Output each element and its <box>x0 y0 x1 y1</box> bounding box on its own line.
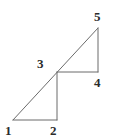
vertex-label-1: 1 <box>5 124 12 137</box>
geometry-figure: 1 2 3 4 5 <box>0 0 113 140</box>
vertex-label-2: 2 <box>50 124 57 137</box>
vertex-label-4: 4 <box>94 76 101 89</box>
segment-hypotenuse-1-to-5 <box>13 28 98 120</box>
vertex-label-3: 3 <box>37 57 44 70</box>
vertex-label-5: 5 <box>94 10 101 23</box>
